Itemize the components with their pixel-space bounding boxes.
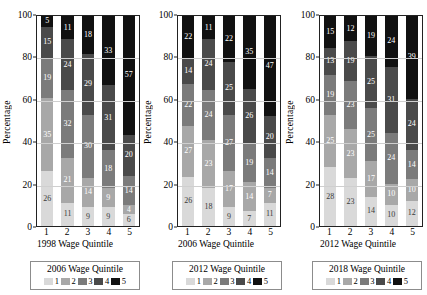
- bar-segment[interactable]: 9: [102, 207, 115, 226]
- legend-item[interactable]: 4: [94, 276, 109, 286]
- stacked-bar[interactable]: 1513192528: [324, 16, 337, 226]
- bar-segment[interactable]: 39: [406, 16, 419, 99]
- bar-segment[interactable]: 25: [223, 62, 236, 115]
- bar-segment[interactable]: 17: [223, 171, 236, 207]
- bar-segment[interactable]: 18: [102, 150, 115, 188]
- bar-segment[interactable]: 18: [202, 188, 215, 226]
- stacked-bar[interactable]: 57201446: [123, 16, 136, 226]
- bar-segment[interactable]: 9: [82, 207, 95, 226]
- bar-segment[interactable]: 23: [344, 81, 357, 129]
- bar-segment[interactable]: 19: [41, 58, 54, 98]
- bar-segment[interactable]: 14: [82, 178, 95, 207]
- stacked-bar[interactable]: 1925251714: [365, 16, 378, 226]
- bar-segment[interactable]: 26: [182, 177, 195, 226]
- bar-segment[interactable]: 10: [406, 179, 419, 200]
- bar-segment[interactable]: 26: [243, 89, 256, 143]
- stacked-bar[interactable]: 515193526: [41, 16, 54, 226]
- bar-segment[interactable]: 14: [123, 176, 136, 205]
- bar-segment[interactable]: 20: [123, 135, 136, 177]
- bar-segment[interactable]: 24: [61, 39, 74, 90]
- bar-segment[interactable]: 24: [202, 39, 215, 89]
- bar-segment[interactable]: 19: [324, 75, 337, 115]
- bar-segment[interactable]: 27: [182, 126, 195, 177]
- bar-segment[interactable]: 15: [41, 27, 54, 59]
- bar-segment[interactable]: 30: [82, 115, 95, 178]
- stacked-bar[interactable]: 182930149: [82, 16, 95, 226]
- bar-segment[interactable]: 10: [385, 184, 398, 205]
- bar-segment[interactable]: 35: [243, 16, 256, 89]
- bar-segment[interactable]: 18: [82, 16, 95, 54]
- stacked-bar[interactable]: 1219232323: [344, 16, 357, 226]
- bar-segment[interactable]: 28: [324, 167, 337, 226]
- bar-segment[interactable]: 11: [264, 203, 277, 226]
- bar-segment[interactable]: 12: [406, 201, 419, 226]
- bar-segment[interactable]: 11: [61, 16, 74, 39]
- legend-item[interactable]: 3: [360, 276, 375, 286]
- bar-segment[interactable]: 31: [385, 67, 398, 133]
- y-axis-ticks-2: 020406080100: [297, 10, 319, 235]
- bar-segment[interactable]: 12: [344, 16, 357, 41]
- bar-segment[interactable]: 14: [406, 150, 419, 180]
- bar-segment[interactable]: 14: [182, 58, 195, 84]
- bar-segment[interactable]: 19: [243, 143, 256, 183]
- legend-item[interactable]: 2: [61, 276, 76, 286]
- stacked-bar[interactable]: 222527179: [223, 16, 236, 226]
- bar-segment[interactable]: 14: [243, 182, 256, 211]
- bar-segment[interactable]: 31: [102, 85, 115, 150]
- bar-segment[interactable]: 26: [41, 171, 54, 226]
- legend-item[interactable]: 1: [326, 276, 341, 286]
- legend-item[interactable]: 1: [44, 276, 59, 286]
- legend-item[interactable]: 2: [343, 276, 358, 286]
- bar-segment[interactable]: 24: [202, 90, 215, 140]
- bar-segment[interactable]: 22: [182, 16, 195, 58]
- stacked-bar[interactable]: 33311899: [102, 16, 115, 226]
- bar-segment[interactable]: 23: [344, 129, 357, 177]
- bar-segment[interactable]: 20: [264, 116, 277, 158]
- bar-segment[interactable]: 29: [82, 54, 95, 115]
- bar-segment[interactable]: 13: [324, 48, 337, 75]
- bar-segment[interactable]: 22: [223, 16, 236, 62]
- bar-segment[interactable]: 24: [385, 133, 398, 184]
- legend-item[interactable]: 5: [111, 276, 126, 286]
- bar-segment[interactable]: 7: [243, 211, 256, 226]
- bar-segment[interactable]: 23: [202, 140, 215, 188]
- bar-segment[interactable]: 4: [123, 205, 136, 213]
- bar-segment[interactable]: 14: [365, 197, 378, 226]
- bar-segment[interactable]: 7: [264, 188, 277, 203]
- bar-segment[interactable]: 11: [202, 16, 215, 39]
- legend-item[interactable]: 1: [186, 276, 201, 286]
- legend-item[interactable]: 3: [220, 276, 235, 286]
- bar-segment[interactable]: 25: [365, 108, 378, 161]
- bar-segment[interactable]: 19: [344, 41, 357, 81]
- stacked-bar[interactable]: 3924141012: [406, 16, 419, 226]
- bar-segment[interactable]: 9: [102, 188, 115, 207]
- legend-item[interactable]: 4: [376, 276, 391, 286]
- stacked-bar[interactable]: 2214222726: [182, 16, 195, 226]
- bar-segment[interactable]: 10: [385, 205, 398, 226]
- bar-segment[interactable]: 57: [123, 16, 136, 135]
- bar-segment[interactable]: 17: [365, 161, 378, 197]
- bar-segment[interactable]: 6: [123, 214, 136, 226]
- bar-segment[interactable]: 5: [41, 16, 54, 27]
- bar-segment[interactable]: 15: [324, 16, 337, 48]
- stacked-bar[interactable]: 472014711: [264, 16, 277, 226]
- bar-segment[interactable]: 33: [102, 16, 115, 85]
- bar-segment[interactable]: 11: [61, 203, 74, 226]
- stacked-bar[interactable]: 1124322111: [61, 16, 74, 226]
- legend-item[interactable]: 4: [236, 276, 251, 286]
- stacked-bar[interactable]: 1124242318: [202, 16, 215, 226]
- bar-segment[interactable]: 14: [264, 158, 277, 188]
- legend-item[interactable]: 3: [78, 276, 93, 286]
- stacked-bar[interactable]: 2431241010: [385, 16, 398, 226]
- bar-segment[interactable]: 35: [41, 98, 54, 172]
- bar-segment[interactable]: 19: [365, 16, 378, 56]
- legend-item[interactable]: 5: [393, 276, 408, 286]
- stacked-bar[interactable]: 352619147: [243, 16, 256, 226]
- legend-item[interactable]: 5: [253, 276, 268, 286]
- bar-segment[interactable]: 24: [406, 99, 419, 150]
- bar-segment[interactable]: 21: [61, 158, 74, 203]
- bar-segment[interactable]: 25: [324, 115, 337, 168]
- bar-segment[interactable]: 22: [182, 84, 195, 126]
- legend-item[interactable]: 2: [203, 276, 218, 286]
- bar-segment[interactable]: 9: [223, 207, 236, 226]
